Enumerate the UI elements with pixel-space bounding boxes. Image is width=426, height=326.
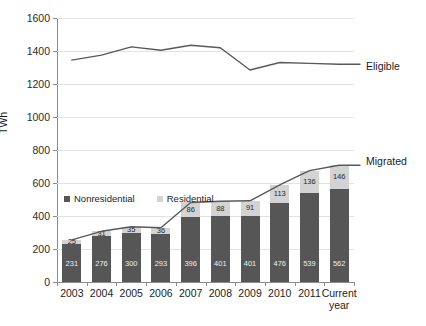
bar-value-nonresidential: 231 xyxy=(62,260,81,268)
bar-value-nonresidential: 476 xyxy=(270,260,289,268)
bar-value-nonresidential: 300 xyxy=(122,260,141,268)
x-tick-mark xyxy=(176,282,177,286)
series-label-eligible: Eligible xyxy=(366,60,400,72)
chart-figure: TWh 02004006008001000120014001600 231252… xyxy=(0,0,426,326)
bar-group: 39686 xyxy=(181,202,200,282)
bar-group: 27631 xyxy=(92,231,111,282)
bar-value-nonresidential: 539 xyxy=(300,260,319,268)
bar-group: 476113 xyxy=(270,185,289,282)
legend-label: Residential xyxy=(167,193,214,204)
bar-segment-nonresidential: 539 xyxy=(300,193,319,282)
bar-segment-nonresidential: 300 xyxy=(122,233,141,283)
y-tick-label: 600 xyxy=(0,178,50,188)
bar-group: 40188 xyxy=(211,201,230,282)
bar-value-nonresidential: 276 xyxy=(92,260,111,268)
bar-value-residential: 113 xyxy=(270,190,289,198)
y-tick-label: 1400 xyxy=(0,46,50,56)
bar-value-residential: 91 xyxy=(241,204,260,212)
bar-value-residential: 88 xyxy=(211,205,230,213)
series-label-migrated: Migrated xyxy=(366,155,407,167)
y-tick-label: 1600 xyxy=(0,13,50,23)
y-tick-label: 0 xyxy=(0,277,50,287)
x-tick-mark xyxy=(295,282,296,286)
bar-group: 23125 xyxy=(62,240,81,282)
bar-group: 29336 xyxy=(151,228,170,282)
legend-item: Residential xyxy=(157,193,214,204)
x-tick-mark xyxy=(206,282,207,286)
bar-group: 562146 xyxy=(330,165,349,282)
y-tick-label: 200 xyxy=(0,244,50,254)
x-tick-mark xyxy=(235,282,236,286)
bar-group: 539136 xyxy=(300,171,319,282)
x-tick-label: Currentyear xyxy=(313,288,365,311)
bar-value-residential: 146 xyxy=(330,173,349,181)
bar-segment-nonresidential: 401 xyxy=(211,216,230,282)
legend-swatch-icon xyxy=(64,196,70,202)
bar-segment-nonresidential: 562 xyxy=(330,189,349,282)
x-tick-mark xyxy=(116,282,117,286)
bar-value-nonresidential: 401 xyxy=(241,260,260,268)
bar-value-residential: 31 xyxy=(92,230,111,238)
bar-segment-nonresidential: 396 xyxy=(181,217,200,282)
bar-value-nonresidential: 562 xyxy=(330,260,349,268)
legend-item: Nonresidential xyxy=(64,193,135,204)
bar-value-residential: 36 xyxy=(151,227,170,235)
bar-value-residential: 25 xyxy=(62,238,81,246)
y-tick-label: 400 xyxy=(0,211,50,221)
x-tick-mark xyxy=(324,282,325,286)
bar-segment-nonresidential: 476 xyxy=(270,203,289,282)
bar-value-residential: 35 xyxy=(122,226,141,234)
chart-legend: NonresidentialResidential xyxy=(64,193,214,204)
bar-group: 40191 xyxy=(241,201,260,282)
bar-segment-nonresidential: 293 xyxy=(151,234,170,282)
legend-swatch-icon xyxy=(157,196,163,202)
legend-label: Nonresidential xyxy=(74,193,135,204)
bar-value-nonresidential: 293 xyxy=(151,260,170,268)
y-tick-label: 1000 xyxy=(0,112,50,122)
x-tick-mark xyxy=(87,282,88,286)
bar-group: 30035 xyxy=(122,227,141,282)
x-tick-mark xyxy=(265,282,266,286)
x-tick-mark xyxy=(146,282,147,286)
bar-value-residential: 86 xyxy=(181,206,200,214)
y-tick-label: 800 xyxy=(0,145,50,155)
bar-segment-nonresidential: 276 xyxy=(92,236,111,282)
x-tick-mark xyxy=(57,282,58,286)
bar-segment-nonresidential: 401 xyxy=(241,216,260,282)
y-tick-label: 1200 xyxy=(0,79,50,89)
plot-area: 2312527631300352933639686401884019147611… xyxy=(57,18,354,282)
bar-value-nonresidential: 401 xyxy=(211,260,230,268)
x-tick-mark xyxy=(354,282,355,286)
bar-segment-nonresidential: 231 xyxy=(62,244,81,282)
bar-value-residential: 136 xyxy=(300,178,319,186)
bar-value-nonresidential: 396 xyxy=(181,260,200,268)
